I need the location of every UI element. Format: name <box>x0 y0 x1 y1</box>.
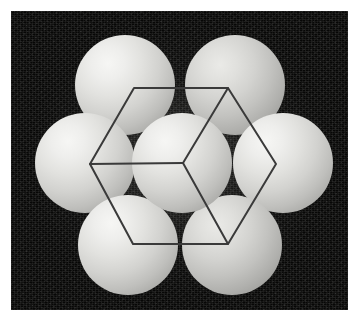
crystal-packing-scene <box>11 11 348 310</box>
figure-root: Hexagonal close-packed sphere model with… <box>0 0 357 322</box>
hexagonal-prism-outline <box>11 11 348 310</box>
edge-center-to-top-right <box>183 88 228 163</box>
hexagon-outline <box>90 88 276 244</box>
edge-center-to-left <box>90 163 183 164</box>
edge-center-to-bottom-right <box>183 163 228 244</box>
